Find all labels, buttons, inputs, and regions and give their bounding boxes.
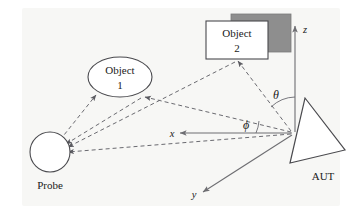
- object-2-label-line2: 2: [234, 42, 240, 54]
- object-1-label-line1: Object: [105, 64, 134, 76]
- diagram-canvas: Object 1 Object 2 Probe AUT x y z θ ϕ: [0, 0, 361, 221]
- axis-z-label: z: [302, 24, 307, 35]
- probe-label: Probe: [37, 179, 63, 191]
- background-panel: [22, 8, 340, 206]
- theta-label: θ: [273, 88, 279, 102]
- object-2-label-line1: Object: [222, 27, 251, 39]
- axis-y-label: y: [191, 189, 197, 200]
- geometry-diagram: Object 1 Object 2 Probe AUT x y z θ ϕ: [0, 0, 361, 221]
- aut-label: AUT: [312, 170, 335, 182]
- probe-circle[interactable]: [30, 132, 70, 172]
- object-1-ellipse[interactable]: [88, 57, 152, 97]
- object-1-label-line2: 1: [117, 79, 123, 91]
- axis-x-label: x: [169, 128, 175, 139]
- phi-label: ϕ: [243, 118, 249, 132]
